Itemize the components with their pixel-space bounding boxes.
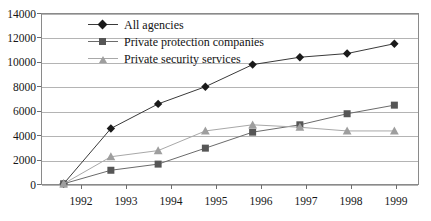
square-marker	[391, 102, 398, 109]
legend-label: All agencies	[124, 19, 184, 31]
square-marker	[202, 145, 209, 152]
legend-item-all-agencies: All agencies	[88, 17, 264, 32]
diamond-marker	[154, 100, 162, 108]
legend-item-private-security-services: Private security services	[88, 51, 264, 66]
square-marker	[155, 161, 162, 168]
square-marker	[107, 167, 114, 174]
square-icon	[88, 36, 118, 48]
diamond-marker	[390, 40, 398, 48]
square-marker	[249, 129, 256, 136]
diamond-icon	[88, 19, 118, 31]
line-chart: 14000 12000 10000 8000 6000 4000 2000 0 …	[0, 0, 431, 221]
triangle-icon	[88, 53, 118, 65]
diamond-marker	[343, 49, 351, 57]
legend-item-private-protection-companies: Private protection companies	[88, 34, 264, 49]
diamond-marker	[296, 53, 304, 61]
diamond-marker	[201, 83, 209, 91]
triangle-marker	[154, 146, 163, 154]
triangle-marker	[248, 120, 257, 128]
legend-label: Private protection companies	[124, 36, 264, 48]
square-marker	[344, 110, 351, 117]
legend: All agencies Private protection companie…	[88, 17, 264, 66]
series-private-protection-companies	[60, 102, 398, 188]
legend-label: Private security services	[124, 53, 241, 65]
